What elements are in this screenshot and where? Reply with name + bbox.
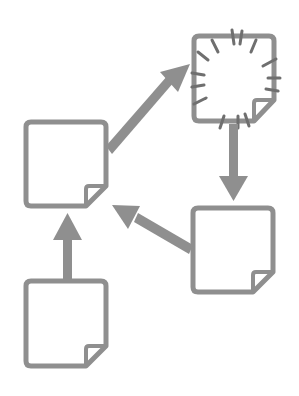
arrow-up-icon — [53, 213, 82, 280]
sticky-note-icon — [193, 208, 273, 292]
arrow-down-icon — [219, 124, 248, 201]
arrow-diagonal-up-left-icon — [112, 205, 193, 254]
workflow-diagram — [0, 0, 299, 396]
arrow-diagonal-up-right-icon — [106, 64, 190, 154]
sticky-note-icon — [26, 281, 106, 366]
sticky-note-burst-icon — [194, 36, 274, 121]
sticky-note-icon — [26, 122, 106, 206]
